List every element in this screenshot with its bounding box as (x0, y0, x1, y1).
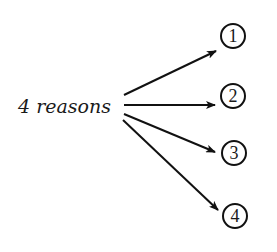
reason-node-3: 3 (222, 141, 246, 165)
source-label: 4 reasons (17, 95, 111, 117)
reason-node-4: 4 (223, 204, 247, 228)
reason-number: 2 (229, 86, 238, 106)
reason-number: 3 (230, 143, 239, 163)
reason-node-1: 1 (221, 24, 245, 48)
reasons-diagram: 4 reasons 1234 (0, 0, 277, 252)
arrow-to-reason-1 (124, 51, 216, 95)
reason-number: 4 (231, 206, 240, 226)
reason-number: 1 (229, 26, 238, 46)
arrows-group (123, 51, 218, 210)
nodes-group: 1234 (221, 24, 247, 228)
reason-node-2: 2 (221, 84, 245, 108)
